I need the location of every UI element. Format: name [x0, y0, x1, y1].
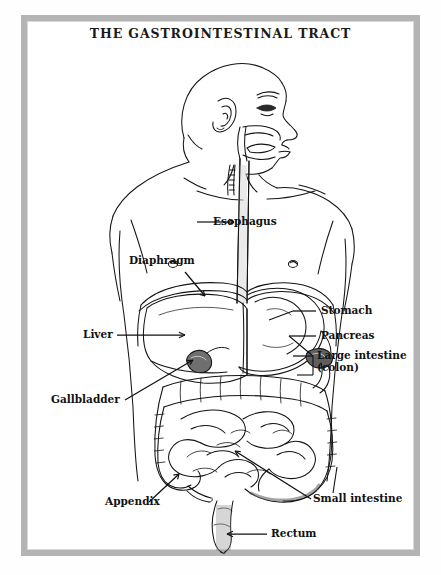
label-rectum-text: Rectum [271, 527, 316, 539]
neck [224, 165, 277, 192]
label-large-intestine-sub: (colon) [317, 361, 407, 373]
label-small-intestine-text: Small intestine [313, 492, 402, 504]
figure-page: THE GASTROINTESTINAL TRACT [0, 0, 441, 575]
eye-and-brow [257, 92, 279, 116]
label-pancreas-text: Pancreas [321, 329, 374, 341]
small-intestine [169, 410, 316, 491]
label-small-intestine: Small intestine [313, 492, 402, 504]
appendix [187, 486, 212, 502]
label-large-intestine: Large intestine (colon) [317, 349, 407, 374]
esophagus [228, 159, 249, 303]
label-diaphragm: Diaphragm [129, 254, 195, 266]
label-stomach-text: Stomach [321, 304, 372, 316]
leader-lines [117, 219, 337, 536]
head-profile-outline [182, 64, 282, 162]
torso-outline [110, 162, 354, 481]
label-appendix: Appendix [105, 495, 160, 507]
rectum [212, 501, 233, 553]
label-stomach: Stomach [321, 304, 372, 316]
label-liver-text: Liver [83, 328, 113, 340]
leader-small-intestine [235, 451, 311, 499]
label-esophagus: Esophagus [213, 215, 277, 227]
label-gallbladder-text: Gallbladder [51, 393, 120, 405]
label-rectum: Rectum [271, 527, 316, 539]
label-appendix-text: Appendix [105, 495, 160, 507]
label-diaphragm-text: Diaphragm [129, 254, 195, 266]
label-esophagus-text: Esophagus [213, 215, 277, 227]
label-gallbladder: Gallbladder [51, 393, 120, 405]
mouth-cavity [238, 126, 280, 161]
gastrointestinal-tract-illustration [21, 15, 420, 556]
label-liver: Liver [83, 328, 113, 340]
label-pancreas: Pancreas [321, 329, 374, 341]
illustration-stage: Esophagus Diaphragm Liver Gallbladder Ap… [21, 15, 420, 556]
label-large-intestine-text: Large intestine [317, 349, 407, 361]
ear [213, 98, 236, 132]
large-intestine [154, 375, 337, 502]
leader-gallbladder [125, 360, 193, 400]
